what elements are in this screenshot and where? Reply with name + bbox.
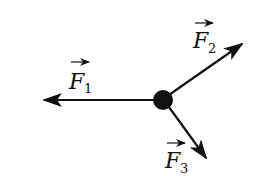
label-f2-name: F: [192, 28, 209, 53]
force-diagram-svg: F 1 F 2 F 3: [0, 0, 257, 176]
label-f2-sub: 2: [208, 41, 216, 56]
label-f1: F 1: [68, 62, 92, 96]
force-diagram: F 1 F 2 F 3: [0, 0, 257, 176]
particle-dot: [153, 90, 173, 110]
label-f3-name: F: [164, 148, 181, 173]
label-f2: F 2: [192, 23, 216, 56]
label-f3-sub: 3: [180, 161, 188, 176]
label-f1-name: F: [68, 69, 85, 94]
label-f1-sub: 1: [84, 81, 92, 96]
label-f3: F 3: [164, 143, 188, 176]
